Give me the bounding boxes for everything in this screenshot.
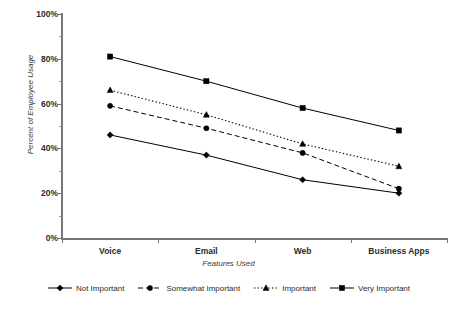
y-major-tick <box>57 148 62 149</box>
legend-label: Not Important <box>76 284 124 293</box>
legend-item-very-important[interactable]: Very Important <box>329 283 410 293</box>
triangle-marker <box>253 283 279 293</box>
diamond-marker <box>47 283 73 293</box>
legend-label: Important <box>282 284 316 293</box>
y-major-tick <box>57 193 62 194</box>
x-tick <box>447 238 448 243</box>
y-major-tick <box>57 14 62 15</box>
y-tick-label: 40% <box>24 144 58 153</box>
y-minor-tick <box>59 81 62 82</box>
x-tick-label: Voice <box>99 246 121 256</box>
x-tick <box>255 238 256 243</box>
y-minor-tick <box>59 216 62 217</box>
y-tick-label: 20% <box>24 189 58 198</box>
y-major-tick <box>57 59 62 60</box>
legend-label: Very Important <box>358 284 410 293</box>
x-tick <box>62 238 63 243</box>
y-minor-tick <box>59 171 62 172</box>
y-tick-label: 60% <box>24 100 58 109</box>
y-major-tick <box>57 104 62 105</box>
legend-item-important[interactable]: Important <box>253 283 316 293</box>
square-marker <box>329 283 355 293</box>
x-tick <box>158 238 159 243</box>
y-tick-label: 80% <box>24 55 58 64</box>
legend-label: Somewhat Important <box>166 284 240 293</box>
x-tick-label: Web <box>294 246 312 256</box>
legend-item-not-important[interactable]: Not Important <box>47 283 124 293</box>
plot-area <box>62 14 447 238</box>
y-minor-tick <box>59 126 62 127</box>
x-axis-title: Features Used <box>0 259 457 268</box>
x-tick <box>351 238 352 243</box>
x-tick-label: Business Apps <box>368 246 429 256</box>
circle-marker <box>137 283 163 293</box>
y-tick-label: 0% <box>24 234 58 243</box>
legend-item-somewhat-important[interactable]: Somewhat Important <box>137 283 240 293</box>
line-chart: Percent of Employee Usage 0%20%40%60%80%… <box>0 0 457 310</box>
y-minor-tick <box>59 36 62 37</box>
y-tick-label: 100% <box>24 10 58 19</box>
chart-legend: Not ImportantSomewhat ImportantImportant… <box>0 283 457 293</box>
x-tick-label: Email <box>195 246 218 256</box>
